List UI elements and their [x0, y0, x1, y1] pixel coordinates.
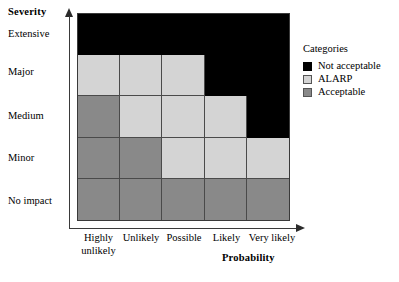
matrix-cell-medium-unlikely — [120, 96, 162, 137]
legend-label-alarp: ALARP — [318, 73, 352, 85]
matrix-cell-no-impact-likely — [205, 179, 247, 220]
x-tick-likely: Likely — [205, 232, 248, 245]
legend-label-not-acceptable: Not acceptable — [318, 60, 381, 72]
matrix-cell-major-highly-unlikely — [78, 55, 120, 96]
legend-title: Categories — [303, 43, 396, 54]
y-tick-no-impact: No impact — [8, 195, 66, 207]
matrix-cell-minor-possible — [162, 138, 204, 179]
x-axis-title: Probability — [222, 252, 275, 263]
x-tick-unlikely: Unlikely — [119, 232, 163, 245]
matrix-cell-extensive-likely — [205, 14, 247, 55]
matrix-cell-medium-possible — [162, 96, 204, 137]
matrix-cell-extensive-very-likely — [247, 14, 289, 55]
x-tick-highly-unlikely: Highly unlikely — [77, 232, 120, 257]
acceptable-swatch-icon — [303, 88, 312, 97]
y-tick-minor: Minor — [8, 152, 66, 164]
matrix-cell-major-very-likely — [247, 55, 289, 96]
legend-item-alarp: ALARP — [303, 73, 396, 85]
matrix-cell-no-impact-highly-unlikely — [78, 179, 120, 220]
matrix-cell-no-impact-very-likely — [247, 179, 289, 220]
x-tick-possible: Possible — [162, 232, 206, 245]
matrix-cell-minor-likely — [205, 138, 247, 179]
matrix-cell-no-impact-possible — [162, 179, 204, 220]
x-tick-highly-unlikely-line1: Highly — [77, 232, 120, 245]
legend-item-acceptable: Acceptable — [303, 86, 396, 98]
matrix-cell-major-unlikely — [120, 55, 162, 96]
matrix-cell-major-likely — [205, 55, 247, 96]
x-axis-line — [69, 228, 297, 229]
not-acceptable-swatch-icon — [303, 62, 312, 71]
y-tick-extensive: Extensive — [8, 28, 66, 40]
alarp-swatch-icon — [303, 75, 312, 84]
matrix-cell-extensive-possible — [162, 14, 204, 55]
y-axis-title: Severity — [8, 6, 46, 17]
legend-label-acceptable: Acceptable — [318, 86, 365, 98]
matrix-cell-minor-unlikely — [120, 138, 162, 179]
risk-matrix-figure: Severity Extensive Major Medium Minor No… — [0, 0, 399, 282]
matrix-cell-extensive-highly-unlikely — [78, 14, 120, 55]
matrix-cell-major-possible — [162, 55, 204, 96]
y-tick-major: Major — [8, 66, 66, 78]
matrix-cell-medium-likely — [205, 96, 247, 137]
legend: Categories Not acceptable ALARP Acceptab… — [303, 43, 396, 99]
y-tick-medium: Medium — [8, 110, 66, 122]
x-tick-very-likely: Very likely — [245, 232, 299, 245]
matrix-cell-minor-very-likely — [247, 138, 289, 179]
matrix-cell-extensive-unlikely — [120, 14, 162, 55]
y-axis-line — [69, 16, 70, 228]
matrix-cell-medium-highly-unlikely — [78, 96, 120, 137]
matrix-cell-medium-very-likely — [247, 96, 289, 137]
matrix-cell-minor-highly-unlikely — [78, 138, 120, 179]
x-tick-highly-unlikely-line2: unlikely — [77, 245, 120, 258]
risk-matrix-grid — [77, 13, 290, 221]
legend-item-not-acceptable: Not acceptable — [303, 60, 396, 72]
matrix-cell-no-impact-unlikely — [120, 179, 162, 220]
x-axis-arrowhead-icon — [296, 224, 305, 232]
